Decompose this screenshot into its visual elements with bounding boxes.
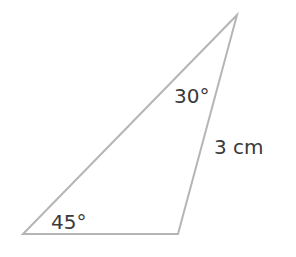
angle-top-label: 30° (174, 84, 209, 108)
angle-bottom-left-label: 45° (51, 210, 86, 234)
side-right-label: 3 cm (214, 135, 264, 159)
triangle-diagram: 30° 45° 3 cm (0, 0, 296, 257)
triangle (23, 15, 237, 234)
